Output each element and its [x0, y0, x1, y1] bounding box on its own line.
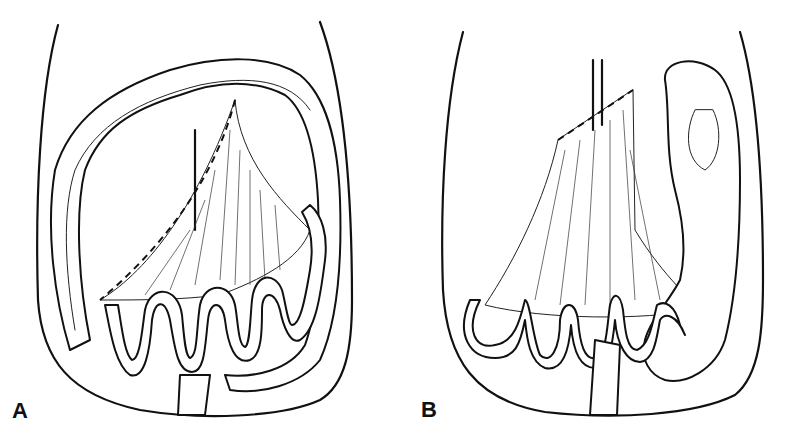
mesentery-texture	[535, 110, 660, 305]
rectum	[178, 375, 210, 415]
panel-a-drawing	[0, 0, 394, 433]
rectum	[590, 340, 620, 415]
incision-line	[100, 100, 235, 300]
panel-b-drawing	[395, 0, 789, 433]
panel-label-b: B	[421, 397, 437, 423]
panel-a-illustration: A	[0, 0, 394, 433]
mesentery	[485, 90, 695, 317]
mesentery-texture	[145, 130, 280, 295]
panel-b-illustration: B	[395, 0, 789, 433]
vessel-lines	[593, 60, 602, 130]
small-bowel	[105, 205, 326, 376]
panel-label-a: A	[12, 398, 28, 424]
